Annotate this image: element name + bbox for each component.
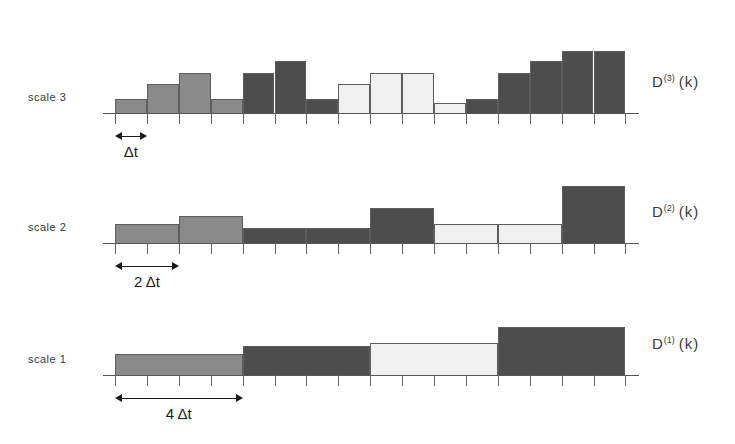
axis-tick-scale-1-5 [275, 375, 276, 386]
axis-tick-scale-1-2 [179, 375, 180, 386]
bar-scale-1-4 [498, 327, 626, 375]
axis-tick-scale-1-3 [211, 375, 212, 386]
axis-tick-scale-1-16 [625, 375, 626, 386]
annotation-label-scale-1: 4 Δt [115, 405, 243, 422]
axis-tick-scale-1-7 [338, 375, 339, 386]
axis-tick-scale-1-15 [594, 375, 595, 386]
axis-tick-scale-1-0 [115, 375, 116, 386]
scale-label-scale-1: scale 1 [28, 353, 66, 365]
bar-scale-1-2 [243, 346, 371, 375]
series-label-base-scale-1: D [652, 335, 664, 352]
series-label-argument-scale-1: (k) [679, 335, 700, 352]
axis-tick-scale-1-13 [530, 375, 531, 386]
axis-tick-scale-1-10 [434, 375, 435, 386]
axis-tick-scale-1-9 [402, 375, 403, 386]
annotation-arrow-line-scale-1 [118, 398, 240, 399]
axis-tick-scale-1-14 [562, 375, 563, 386]
axis-tick-scale-1-12 [498, 375, 499, 386]
bar-scale-1-3 [370, 343, 498, 375]
axis-tick-scale-1-11 [466, 375, 467, 386]
axis-tick-scale-1-8 [370, 375, 371, 386]
figure-canvas: scale 3D(3)(k)Δtscale 2D(2)(k)2 Δtscale … [0, 0, 735, 444]
series-label-scale-1: D(1)(k) [652, 335, 699, 352]
axis-tick-scale-1-1 [147, 375, 148, 386]
axis-tick-scale-1-6 [306, 375, 307, 386]
interval-annotation-scale-1: 4 Δt [115, 392, 243, 426]
annotation-arrowhead-left-scale-1 [115, 394, 122, 402]
axis-baseline-scale-1 [103, 375, 639, 376]
series-label-superscript-scale-1: (1) [664, 335, 675, 345]
bar-scale-1-1 [115, 354, 243, 375]
plot-row-scale-1: scale 1D(1)(k)4 Δt [0, 0, 735, 444]
annotation-arrowhead-right-scale-1 [236, 394, 243, 402]
axis-tick-scale-1-4 [243, 375, 244, 386]
